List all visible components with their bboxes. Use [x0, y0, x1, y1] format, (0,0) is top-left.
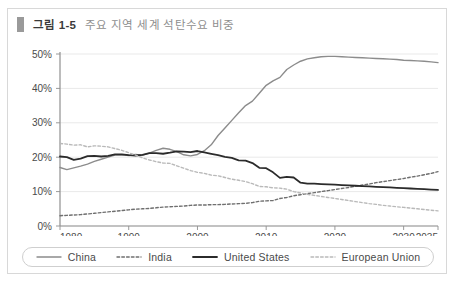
x-tick-label: 2000: [186, 232, 209, 236]
chart-axes: [60, 52, 438, 226]
x-tick-label: 1980: [60, 232, 83, 236]
legend-item-united-states[interactable]: United States: [192, 251, 290, 263]
y-tick-label: 20%: [32, 152, 52, 163]
chart-gridlines: [60, 54, 438, 226]
page-title: 주요 지역 세계 석탄수요 비중: [85, 16, 235, 32]
chart-legend: ChinaIndiaUnited StatesEuropean Union: [22, 247, 434, 267]
x-tick-label: 1990: [118, 232, 141, 236]
y-tick-label: 0%: [38, 221, 53, 232]
x-tick-label: 2035: [416, 232, 439, 236]
legend-label: European Union: [342, 251, 421, 263]
x-tick-label: 2010: [255, 232, 278, 236]
series-line-china: [60, 56, 438, 169]
y-axis-tick-labels: 0%10%20%30%40%50%: [32, 49, 60, 232]
y-tick-label: 40%: [32, 83, 52, 94]
title-marker-icon: [17, 17, 24, 32]
line-chart-svg: 0%10%20%30%40%50% 1980199020002010202020…: [8, 36, 448, 236]
legend-swatch-icon: [310, 252, 336, 262]
figure-container: 그림 1-5 주요 지역 세계 석탄수요 비중 0%10%20%30%40%50…: [7, 8, 447, 274]
y-tick-label: 50%: [32, 49, 52, 60]
legend-item-china[interactable]: China: [36, 251, 96, 263]
x-tick-label: 2020: [324, 232, 347, 236]
legend-item-european-union[interactable]: European Union: [310, 251, 421, 263]
legend-label: India: [148, 251, 172, 263]
figure-number-label: 그림 1-5: [33, 16, 76, 32]
legend-swatch-icon: [36, 252, 62, 262]
legend-item-india[interactable]: India: [116, 251, 172, 263]
x-tick-label: 2030: [393, 232, 416, 236]
figure-title-bar: 그림 1-5 주요 지역 세계 석탄수요 비중: [8, 9, 446, 39]
y-tick-label: 10%: [32, 186, 52, 197]
chart-plot-area: 0%10%20%30%40%50% 1980199020002010202020…: [8, 36, 448, 236]
y-tick-label: 30%: [32, 117, 52, 128]
legend-label: China: [68, 251, 96, 263]
legend-swatch-icon: [116, 252, 142, 262]
x-axis-tick-labels: 1980199020002010202020302035: [60, 226, 438, 236]
legend-label: United States: [224, 251, 290, 263]
legend-swatch-icon: [192, 252, 218, 262]
series-line-india: [60, 172, 438, 216]
